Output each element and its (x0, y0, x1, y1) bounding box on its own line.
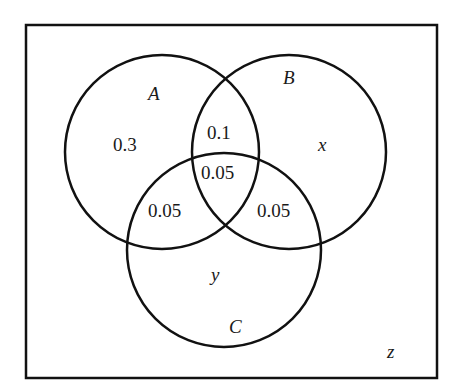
region-b-and-c: 0.05 (257, 200, 290, 221)
set-label-b: B (283, 67, 295, 88)
venn-diagram: A B C 0.3 x y 0.1 0.05 0.05 0.05 z (0, 0, 459, 389)
set-label-c: C (229, 316, 242, 337)
region-outside: z (386, 341, 395, 362)
region-c-only: y (209, 264, 220, 285)
region-a-and-b: 0.1 (207, 122, 231, 143)
region-b-only: x (317, 134, 327, 155)
set-label-a: A (146, 83, 160, 104)
region-a-and-c: 0.05 (148, 200, 181, 221)
region-a-b-c: 0.05 (201, 162, 234, 183)
region-a-only: 0.3 (113, 134, 137, 155)
